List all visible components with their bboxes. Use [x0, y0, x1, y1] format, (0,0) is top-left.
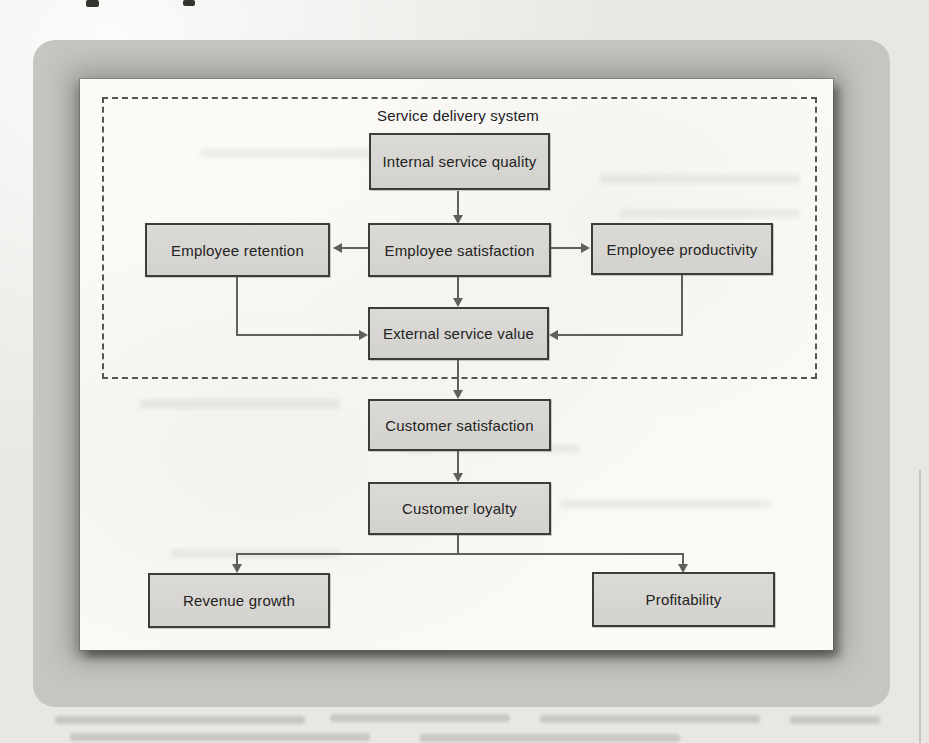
- node-profitability: Profitability: [592, 572, 775, 627]
- bleed-text-row: [790, 716, 880, 724]
- arrow-head-icon: [359, 330, 368, 340]
- edge-internal-to-satisfaction: [457, 191, 459, 216]
- node-label: Revenue growth: [183, 592, 295, 609]
- node-label: Customer loyalty: [402, 500, 517, 517]
- arrow-head-icon: [453, 390, 463, 399]
- node-label: Employee productivity: [607, 241, 758, 258]
- edge-loyalty-drop: [457, 535, 459, 555]
- arrow-head-icon: [232, 564, 242, 573]
- edge-satisfaction-to-retention: [342, 247, 368, 249]
- node-internal-service-quality: Internal service quality: [369, 133, 550, 190]
- arrow-head-icon: [678, 564, 688, 573]
- node-employee-retention: Employee retention: [145, 223, 330, 277]
- bleed-text-row: [70, 733, 370, 741]
- edge-productivity-to-external-horizontal: [558, 334, 683, 336]
- bleed-text-row: [55, 716, 305, 724]
- bleed-text-row: [420, 734, 680, 742]
- bleed-text-row: [330, 714, 510, 722]
- boundary-label: Service delivery system: [338, 107, 578, 124]
- arrow-head-icon: [453, 298, 463, 307]
- node-employee-productivity: Employee productivity: [591, 223, 773, 275]
- arrow-head-icon: [549, 330, 558, 340]
- node-label: Customer satisfaction: [385, 417, 533, 434]
- node-employee-satisfaction: Employee satisfaction: [368, 223, 551, 277]
- arrow-head-icon: [333, 243, 342, 253]
- arrow-head-icon: [453, 215, 463, 224]
- edge-branch-horizontal: [236, 553, 684, 555]
- edge-productivity-to-external-vertical: [681, 275, 683, 336]
- scanned-book-page: Service delivery system Internal service…: [0, 0, 929, 743]
- cropped-glyph-mark: [183, 0, 195, 6]
- edge-external-to-customer-satisfaction: [457, 360, 459, 391]
- node-external-service-value: External service value: [368, 307, 549, 360]
- arrow-head-icon: [453, 473, 463, 482]
- node-label: Employee satisfaction: [384, 242, 534, 259]
- edge-satisfaction-to-loyalty: [457, 451, 459, 474]
- node-label: External service value: [383, 325, 534, 342]
- page-gutter-line: [919, 470, 921, 743]
- bleed-smudge: [140, 399, 340, 409]
- cropped-glyph-mark: [86, 0, 99, 7]
- node-customer-loyalty: Customer loyalty: [368, 482, 551, 535]
- node-revenue-growth: Revenue growth: [148, 573, 330, 628]
- figure-frame: Service delivery system Internal service…: [33, 40, 890, 707]
- node-customer-satisfaction: Customer satisfaction: [368, 399, 551, 451]
- node-label: Employee retention: [171, 242, 304, 259]
- edge-retention-to-external-horizontal: [236, 334, 359, 336]
- node-label: Profitability: [646, 591, 722, 608]
- arrow-head-icon: [581, 243, 590, 253]
- edge-satisfaction-to-productivity: [551, 247, 581, 249]
- bleed-smudge: [560, 499, 770, 509]
- figure-panel: Service delivery system Internal service…: [80, 79, 833, 650]
- node-label: Internal service quality: [382, 153, 536, 170]
- edge-retention-to-external-vertical: [236, 277, 238, 336]
- edge-satisfaction-to-external: [457, 277, 459, 299]
- bleed-text-row: [540, 715, 760, 723]
